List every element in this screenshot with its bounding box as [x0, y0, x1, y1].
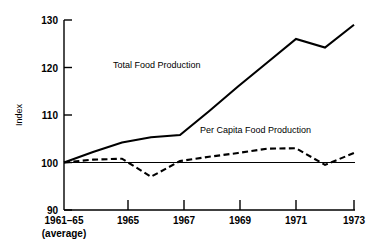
y-tick-label-120: 120: [41, 63, 58, 74]
x-tick-label-1967: 1967: [173, 215, 196, 226]
x-tick-label-1971: 1971: [285, 215, 308, 226]
y-tick-label-110: 110: [42, 110, 59, 121]
x-tick-label-1973: 1973: [343, 215, 366, 226]
series-label-per-capita-food-production: Per Capita Food Production: [200, 125, 311, 135]
chart-canvas: 130 120 110 100 90 Index 1961–65 (averag…: [0, 0, 384, 252]
y-axis-title: Index: [14, 103, 24, 126]
series-label-total-food-production: Total Food Production: [113, 60, 201, 70]
x-tick-label-base-line1: 1961–65: [45, 215, 84, 226]
x-tick-label-base-line2: (average): [42, 228, 86, 239]
food-production-index-chart: 130 120 110 100 90 Index 1961–65 (averag…: [0, 0, 384, 252]
y-tick-label-100: 100: [41, 158, 58, 169]
x-tick-label-1969: 1969: [229, 215, 252, 226]
y-tick-label-130: 130: [41, 15, 58, 26]
x-tick-label-1965: 1965: [117, 215, 140, 226]
series-line-total-food-production: [64, 25, 354, 163]
